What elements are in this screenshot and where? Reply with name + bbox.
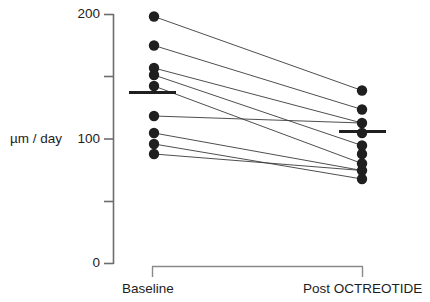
pair-connector-3 (154, 68, 362, 123)
data-point (357, 149, 367, 159)
data-point (357, 174, 367, 184)
data-point (149, 70, 159, 80)
group-label-post-octreotide: Post OCTREOTIDE (303, 281, 422, 296)
y-tick-label-100: 100 (48, 131, 100, 146)
y-tick-label-0: 0 (48, 255, 100, 270)
data-point (149, 139, 159, 149)
group-bracket (152, 267, 363, 278)
y-axis (104, 14, 114, 264)
data-point (149, 11, 159, 21)
data-point (149, 128, 159, 138)
data-point (357, 128, 367, 138)
pair-connector-6 (154, 116, 362, 123)
data-point (149, 40, 159, 50)
data-point (357, 85, 367, 95)
chart-figure: 200 µm / day 100 0 Baseline Post OCTREOT… (0, 0, 430, 302)
pair-connector-4 (154, 75, 362, 146)
pair-connector-2 (154, 46, 362, 110)
pair-connector-9 (154, 154, 362, 171)
data-point (149, 149, 159, 159)
data-point (357, 104, 367, 114)
group-label-baseline: Baseline (122, 281, 174, 296)
pair-connector-lines (154, 17, 362, 180)
data-point (149, 111, 159, 121)
data-point (357, 118, 367, 128)
data-point (149, 81, 159, 91)
pair-connector-1 (154, 17, 362, 91)
mean-bars (129, 93, 386, 132)
baseline-markers (149, 11, 159, 159)
post-octreotide-markers (357, 85, 367, 184)
y-tick-label-200: 200 (48, 6, 100, 21)
pair-connector-8 (154, 144, 362, 179)
